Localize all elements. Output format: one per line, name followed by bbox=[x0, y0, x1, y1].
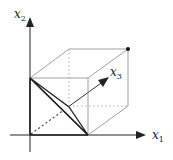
x3-arrowhead-icon bbox=[98, 77, 109, 87]
x3-label: x3 bbox=[110, 66, 122, 81]
diagram-canvas: x2 x3 x1 bbox=[0, 0, 173, 160]
x1-label: x1 bbox=[152, 129, 164, 144]
cube-edge bbox=[30, 49, 69, 78]
simplex-edge bbox=[30, 78, 88, 135]
cube-edge bbox=[88, 106, 128, 135]
x2-arrowhead-icon bbox=[26, 17, 34, 27]
vertex-dot bbox=[126, 47, 130, 51]
x3-axis bbox=[68, 81, 104, 107]
cube-edge bbox=[88, 49, 128, 78]
cube-diagram bbox=[0, 0, 173, 160]
x1-arrowhead-icon bbox=[136, 131, 146, 139]
x3-axis-hidden bbox=[31, 107, 68, 134]
x2-label: x2 bbox=[14, 8, 26, 23]
